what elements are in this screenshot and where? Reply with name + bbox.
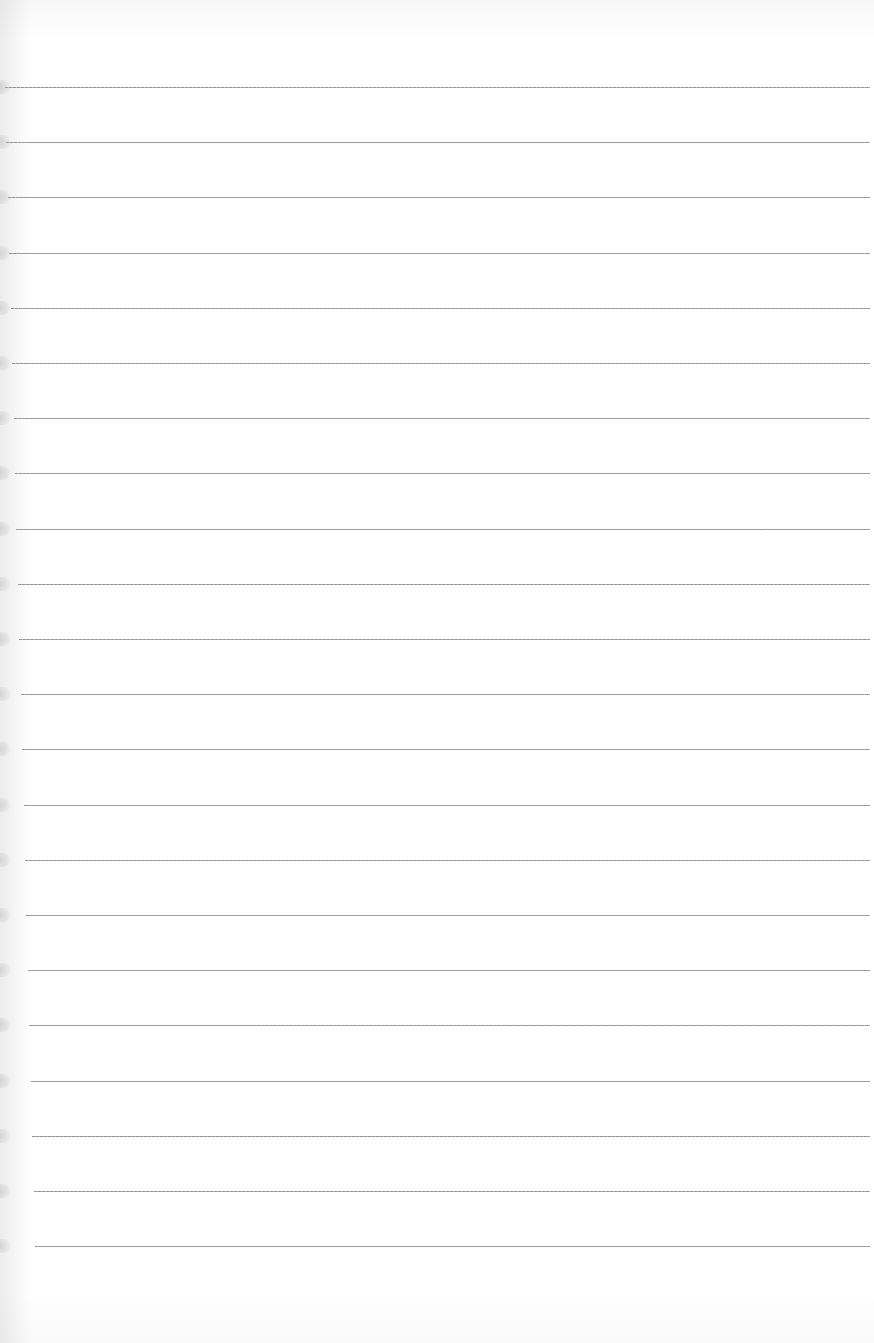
ruled-line	[5, 87, 870, 88]
ruled-line	[35, 1246, 870, 1247]
ruled-line	[11, 308, 870, 309]
ruled-line	[25, 860, 870, 861]
lined-paper-sheet	[0, 0, 874, 1343]
ruled-line	[19, 639, 870, 640]
ruled-line	[32, 1136, 870, 1137]
ruled-line	[9, 253, 870, 254]
ruled-line	[29, 1025, 870, 1026]
ruled-line	[8, 197, 870, 198]
ruled-line	[31, 1081, 870, 1082]
ruled-line	[14, 418, 870, 419]
ruled-line	[12, 363, 870, 364]
ruled-line	[24, 805, 870, 806]
ruled-line	[16, 529, 870, 530]
ruled-line	[18, 584, 870, 585]
ruled-line	[22, 749, 870, 750]
ruled-line	[6, 142, 870, 143]
ruled-line	[15, 473, 870, 474]
ruled-line	[34, 1191, 870, 1192]
ruled-line	[26, 915, 870, 916]
ruled-line	[28, 970, 870, 971]
ruled-line	[21, 694, 870, 695]
